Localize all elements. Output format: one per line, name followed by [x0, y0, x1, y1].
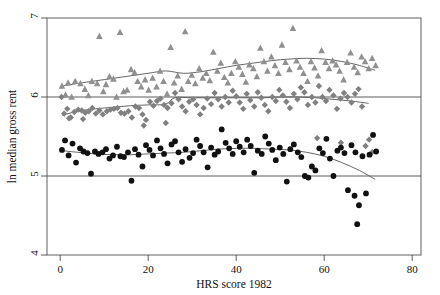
data-point-diamond	[182, 108, 188, 114]
data-point-circle	[363, 190, 369, 196]
plot-frame	[47, 18, 421, 255]
data-point-circle	[327, 156, 333, 162]
data-point-circle	[158, 145, 164, 151]
data-point-circle	[66, 153, 72, 159]
data-point-circle	[62, 138, 68, 144]
data-point-triangle	[192, 80, 199, 86]
data-point-triangle	[210, 48, 217, 54]
y-axis-ticks: 4567	[28, 13, 47, 256]
data-point-triangle	[100, 88, 107, 94]
data-point-circle	[187, 155, 193, 161]
data-point-circle	[233, 138, 239, 144]
data-point-triangle	[365, 65, 372, 71]
data-point-circle	[132, 146, 138, 152]
data-point-triangle	[85, 92, 92, 98]
data-point-circle	[248, 143, 254, 149]
data-point-triangle	[217, 60, 224, 66]
data-point-triangle	[308, 58, 315, 64]
data-point-diamond	[355, 86, 361, 92]
data-point-diamond	[233, 93, 239, 99]
data-point-circle	[223, 140, 229, 146]
data-point-circle	[331, 173, 337, 179]
data-point-diamond	[255, 89, 261, 95]
data-point-diamond	[291, 91, 297, 97]
data-point-diamond	[330, 92, 336, 98]
data-point-circle	[284, 179, 290, 185]
data-point-diamond	[211, 90, 217, 96]
data-point-triangle	[82, 86, 89, 92]
data-point-triangle	[178, 86, 185, 92]
data-point-diamond	[222, 94, 228, 100]
data-point-diamond	[237, 99, 243, 105]
data-point-diamond	[316, 83, 322, 89]
data-point-triangle	[290, 25, 297, 31]
data-point-circle	[291, 142, 297, 148]
data-point-diamond	[305, 102, 311, 108]
data-point-circle	[208, 145, 214, 151]
data-point-circle	[360, 153, 366, 159]
data-point-diamond	[172, 90, 178, 96]
data-point-diamond	[204, 95, 210, 101]
data-point-triangle	[275, 70, 282, 76]
data-point-triangle	[196, 65, 203, 71]
data-point-triangle	[304, 78, 311, 84]
data-point-triangle	[326, 65, 333, 71]
gridlines	[47, 97, 421, 176]
data-point-triangle	[243, 78, 250, 84]
data-point-diamond	[139, 111, 145, 117]
data-point-circle	[140, 164, 146, 170]
data-point-triangle	[103, 81, 110, 87]
data-point-circle	[356, 202, 362, 208]
data-point-circle	[147, 147, 153, 153]
data-point-circle	[190, 150, 196, 156]
data-point-triangle	[239, 71, 246, 77]
data-point-triangle	[128, 66, 135, 72]
data-point-triangle	[254, 73, 261, 79]
data-point-circle	[345, 187, 351, 193]
data-point-circle	[241, 149, 247, 155]
data-point-circle	[305, 175, 311, 181]
data-point-circle	[179, 159, 185, 165]
data-point-triangle	[157, 67, 164, 73]
data-point-triangle	[228, 70, 235, 76]
data-point-circle	[353, 149, 359, 155]
data-point-circle	[59, 147, 65, 153]
data-point-diamond	[309, 94, 315, 100]
data-point-circle	[280, 151, 286, 157]
data-point-triangle	[72, 78, 79, 84]
data-point-diamond	[298, 84, 304, 90]
x-tick-label: 40	[231, 263, 243, 275]
data-point-diamond	[218, 103, 224, 109]
data-point-diamond	[301, 89, 307, 95]
data-point-diamond	[179, 103, 185, 109]
data-point-triangle	[138, 83, 145, 89]
data-point-circle	[110, 153, 116, 159]
data-point-triangle	[182, 28, 189, 34]
data-point-circle	[352, 193, 358, 199]
data-point-circle	[230, 151, 236, 157]
data-point-diamond	[265, 108, 271, 114]
data-point-diamond	[359, 103, 365, 109]
data-point-diamond	[226, 99, 232, 105]
x-axis-title: HRS score 1982	[196, 278, 272, 290]
data-point-triangle	[272, 62, 279, 68]
data-point-triangle	[358, 53, 365, 59]
data-point-circle	[219, 126, 225, 132]
data-point-diamond	[312, 99, 318, 105]
data-point-diamond	[143, 117, 149, 123]
series-circles	[59, 126, 379, 227]
data-point-diamond	[208, 101, 214, 107]
data-point-triangle	[315, 72, 322, 78]
data-point-triangle	[153, 83, 160, 89]
data-point-circle	[287, 146, 293, 152]
data-point-circle	[172, 138, 178, 144]
data-point-triangle	[268, 53, 275, 59]
data-point-circle	[194, 137, 200, 143]
data-point-circle	[183, 146, 189, 152]
data-point-diamond	[251, 103, 257, 109]
data-point-triangle	[225, 79, 232, 85]
data-point-triangle	[185, 78, 192, 84]
data-point-diamond	[61, 110, 67, 116]
data-point-circle	[176, 149, 182, 155]
data-point-triangle	[164, 90, 171, 96]
